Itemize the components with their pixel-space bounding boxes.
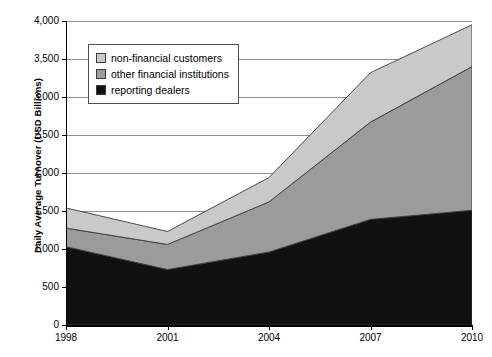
y-tick-label: 1,000 xyxy=(34,243,59,254)
x-tick-mark xyxy=(371,326,372,330)
legend-swatch-icon xyxy=(96,69,106,79)
x-tick-mark xyxy=(168,326,169,330)
legend-label: reporting dealers xyxy=(111,85,190,96)
y-tick-label: 3,500 xyxy=(34,53,59,64)
legend-swatch-icon xyxy=(96,85,106,95)
y-tick-label: 0 xyxy=(53,319,59,330)
y-axis-line xyxy=(66,21,67,326)
chart-legend: non-financial customersother financial i… xyxy=(88,44,239,104)
y-tick-label: 3,000 xyxy=(34,91,59,102)
x-tick-mark xyxy=(66,326,67,330)
legend-swatch-icon xyxy=(96,53,106,63)
y-tick-label: 1,500 xyxy=(34,205,59,216)
x-tick-label: 2010 xyxy=(442,332,492,343)
x-tick-label: 2004 xyxy=(239,332,299,343)
area-chart: Daily Average Turnover (USD Billions) 05… xyxy=(0,0,492,357)
x-tick-label: 2007 xyxy=(341,332,401,343)
legend-label: non-financial customers xyxy=(111,53,222,64)
y-tick-label: 2,500 xyxy=(34,129,59,140)
legend-label: other financial institutions xyxy=(111,69,229,80)
x-tick-mark xyxy=(269,326,270,330)
legend-item: reporting dealers xyxy=(96,82,229,98)
x-tick-mark xyxy=(472,326,473,330)
legend-item: other financial institutions xyxy=(96,66,229,82)
x-tick-label: 2001 xyxy=(138,332,198,343)
y-tick-label: 500 xyxy=(42,281,59,292)
x-tick-label: 1998 xyxy=(36,332,96,343)
y-tick-label: 2,000 xyxy=(34,167,59,178)
legend-item: non-financial customers xyxy=(96,50,229,66)
y-tick-label: 4,000 xyxy=(34,15,59,26)
